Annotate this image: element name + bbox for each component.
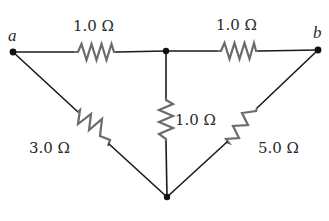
wire: [117, 51, 166, 52]
terminal-a-node: [10, 49, 17, 56]
terminal-b-node: [315, 47, 322, 54]
middle-branch: [159, 51, 173, 197]
wire: [109, 144, 167, 197]
wire: [166, 142, 167, 197]
terminal-a-label: a: [8, 26, 17, 45]
resistor-right-diagonal-label: 5.0 Ω: [258, 139, 299, 157]
top-right-branch: [166, 43, 318, 59]
resistor-middle-icon: [159, 98, 173, 142]
resistor-top-left-icon: [74, 44, 117, 60]
wire: [13, 52, 78, 112]
resistor-top-right-icon: [217, 43, 259, 59]
bottom-junction-node: [164, 194, 170, 200]
resistor-left-diagonal-label: 3.0 Ω: [29, 139, 70, 157]
resistor-top-right-label: 1.0 Ω: [216, 16, 257, 34]
wire: [259, 50, 318, 51]
resistor-middle-label: 1.0 Ω: [175, 111, 216, 129]
left-diagonal-branch: [13, 52, 167, 197]
resistor-right-diagonal-icon: [226, 108, 257, 143]
wire: [167, 142, 227, 197]
resistor-top-left-label: 1.0 Ω: [73, 17, 114, 35]
top-left-branch: [13, 44, 166, 60]
top-junction-node: [163, 48, 169, 54]
resistor-left-diagonal-icon: [78, 110, 110, 146]
terminal-b-label: b: [313, 23, 322, 42]
circuit-diagram: a b 1.0 Ω 1.0 Ω 1.0 Ω 3.0 Ω 5.0 Ω: [0, 0, 329, 221]
wire: [257, 50, 318, 108]
